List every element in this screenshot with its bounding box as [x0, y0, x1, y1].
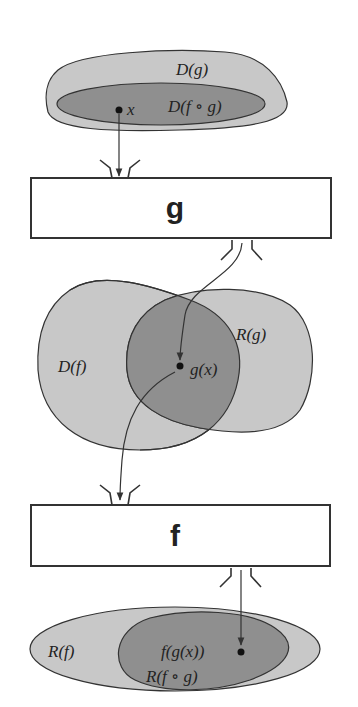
function-box-f: f — [31, 505, 330, 566]
top-sets: D(g) D(f ∘ g) x — [46, 51, 287, 131]
point-gx-label: g(x) — [190, 360, 218, 379]
domain-g-label: D(g) — [175, 60, 208, 79]
bottom-sets: R(f) f(g(x)) R(f ∘ g) — [30, 607, 320, 691]
function-g-label: g — [166, 191, 184, 224]
point-fgx — [238, 649, 245, 656]
domain-f-label: D(f) — [57, 357, 87, 376]
domain-fg-label: D(f ∘ g) — [167, 97, 222, 116]
range-fg-label: R(f ∘ g) — [145, 667, 198, 686]
middle-sets: D(f) R(g) g(x) — [38, 280, 313, 450]
point-fgx-label: f(g(x)) — [161, 642, 205, 661]
range-f-label: R(f) — [47, 642, 75, 661]
g-input-funnel — [100, 160, 140, 178]
point-x-label: x — [126, 100, 135, 119]
function-f-label: f — [170, 519, 181, 552]
domain-fg-region — [57, 83, 265, 125]
point-gx — [177, 363, 184, 370]
point-x — [116, 107, 123, 114]
composition-diagram: D(g) D(f ∘ g) x g D(f) R(g) g(x) f — [0, 0, 358, 707]
function-box-g: g — [31, 178, 331, 238]
range-g-label: R(g) — [235, 325, 267, 344]
